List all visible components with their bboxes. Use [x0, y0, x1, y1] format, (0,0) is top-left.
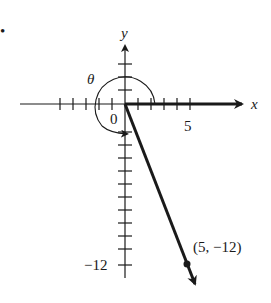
angle-label-theta: θ: [87, 71, 95, 87]
y-tick-label-neg12: −12: [84, 257, 107, 273]
angle-arc-end: [102, 126, 127, 134]
angle-diagram: • y x 0 5: [0, 0, 271, 303]
x-axis-label: x: [250, 96, 258, 112]
x-tick-label-5: 5: [184, 118, 192, 134]
y-axis-label: y: [119, 25, 128, 41]
origin-label: 0: [110, 111, 118, 127]
point-marker: [184, 261, 191, 268]
point-label: (5, −12): [193, 239, 241, 256]
bullet-marker: •: [0, 23, 5, 39]
